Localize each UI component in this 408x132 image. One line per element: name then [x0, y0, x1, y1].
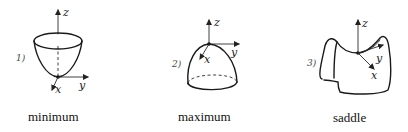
z-axis-label: z [62, 6, 69, 19]
x-axis-label: x [371, 69, 378, 82]
figure-saddle: z y x 3) saddle [307, 17, 391, 125]
z-axis-label: z [213, 16, 220, 29]
caption-maximum: maximum [178, 109, 231, 124]
x-axis-label: x [204, 53, 211, 66]
extrema-diagram: z y x 1) minimum z y x 2) maximum [0, 0, 408, 132]
dome-base-front [188, 82, 237, 90]
figure-number-label: 3) [307, 58, 317, 68]
dome-surface [188, 44, 237, 84]
dome-base-back [188, 75, 237, 83]
saddle-fold [334, 42, 337, 78]
x-axis-arrow [358, 53, 374, 69]
figure-number-label: 2) [171, 59, 182, 69]
x-axis-label: x [55, 83, 62, 96]
figure-minimum: z y x 1) minimum [16, 6, 88, 124]
z-axis-label: z [361, 17, 368, 30]
caption-saddle: saddle [333, 110, 366, 125]
saddle-surface [320, 36, 391, 94]
figure-number-label: 1) [16, 53, 26, 63]
y-axis-label: y [230, 46, 238, 59]
y-axis-label: y [78, 79, 86, 92]
caption-minimum: minimum [28, 109, 79, 124]
figure-maximum: z y x 2) maximum [171, 16, 239, 124]
y-axis-label: y [375, 52, 383, 65]
